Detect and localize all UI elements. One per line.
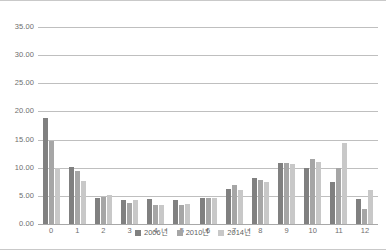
bar (206, 198, 211, 224)
bar-group (300, 27, 326, 224)
gridline (38, 224, 378, 225)
legend-label: 2014년 (227, 229, 251, 237)
y-axis-tick-label: 20.00 (0, 107, 34, 115)
bar-group (195, 27, 221, 224)
legend-item[interactable]: 2014년 (218, 229, 251, 237)
y-axis-tick-label: 5.00 (0, 192, 34, 200)
bar (185, 204, 190, 224)
bar (232, 185, 237, 224)
bar (252, 178, 257, 224)
bar-group (247, 27, 273, 224)
bar (310, 159, 315, 224)
legend-label: 2010년 (186, 229, 210, 237)
bar (179, 205, 184, 224)
legend-item[interactable]: 2006년 (135, 229, 168, 237)
plot-area (38, 27, 378, 224)
bar-group (326, 27, 352, 224)
bar (316, 162, 321, 224)
bar-group (221, 27, 247, 224)
bar (159, 205, 164, 224)
bar (336, 168, 341, 224)
y-axis-tick-label: 15.00 (0, 136, 34, 144)
bar (153, 205, 158, 224)
legend-swatch-icon (218, 230, 224, 236)
bar (304, 168, 309, 224)
bar (212, 198, 217, 224)
bar-group (273, 27, 299, 224)
bar (226, 189, 231, 224)
bar (133, 200, 138, 224)
bar-group (143, 27, 169, 224)
bar-group (169, 27, 195, 224)
bars-layer (38, 27, 378, 224)
bar (264, 182, 269, 224)
bar (127, 203, 132, 224)
bar-group (90, 27, 116, 224)
bar (284, 163, 289, 224)
y-axis-tick-label: 30.00 (0, 51, 34, 59)
bar (147, 199, 152, 224)
bar (43, 118, 48, 224)
bar (173, 200, 178, 224)
legend-item[interactable]: 2010년 (177, 229, 210, 237)
y-axis-tick-label: 35.00 (0, 23, 34, 31)
bar (49, 141, 54, 224)
bar (258, 180, 263, 224)
bar (362, 209, 367, 224)
bar (81, 181, 86, 224)
bar-group (64, 27, 90, 224)
bar-group (38, 27, 64, 224)
y-axis-tick-label: 0.00 (0, 220, 34, 228)
chart-legend: 2006년2010년2014년 (0, 229, 386, 237)
legend-swatch-icon (177, 230, 183, 236)
bar (356, 199, 361, 224)
bar (200, 198, 205, 224)
y-axis-tick-label: 10.00 (0, 164, 34, 172)
bar (121, 200, 126, 224)
legend-swatch-icon (135, 230, 141, 236)
bar (290, 164, 295, 224)
bar (330, 182, 335, 224)
bar (342, 143, 347, 224)
bar (69, 167, 74, 224)
bar (75, 171, 80, 224)
bar (278, 163, 283, 224)
bar (95, 198, 100, 224)
y-axis-tick-label: 25.00 (0, 79, 34, 87)
legend-label: 2006년 (144, 229, 168, 237)
bar-group (116, 27, 142, 224)
bar-chart: 0123456789101112 2006년2010년2014년 35.0030… (0, 0, 386, 250)
bar (101, 197, 106, 224)
bar (368, 190, 373, 224)
bar (55, 168, 60, 224)
bar-group (352, 27, 378, 224)
bar (238, 190, 243, 224)
bar (107, 195, 112, 224)
